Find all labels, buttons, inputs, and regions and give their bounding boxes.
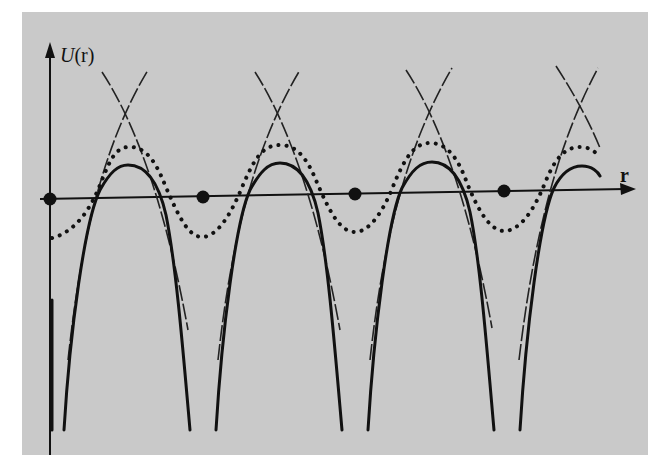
figure-panel xyxy=(22,12,648,455)
ion-dot xyxy=(498,185,511,198)
y-axis-label: U(r) xyxy=(60,44,94,67)
x-axis-label: r xyxy=(620,164,629,186)
ion-dot xyxy=(349,188,362,201)
ion-dot xyxy=(44,193,57,206)
y-axis-label-arg: (r) xyxy=(74,44,94,67)
periodic-potential-figure: U(r) r xyxy=(0,0,670,467)
ion-dot xyxy=(197,191,210,204)
